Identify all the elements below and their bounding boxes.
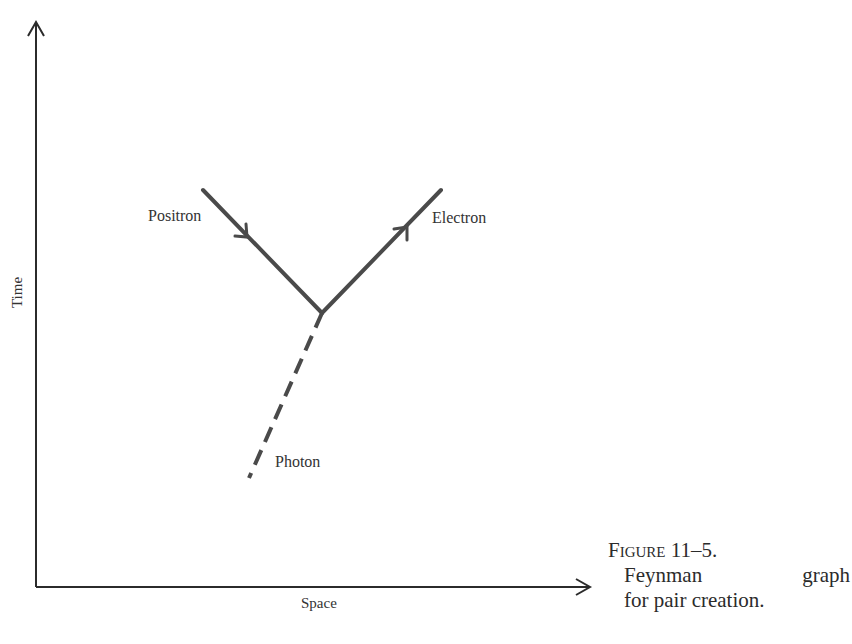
caption-line-1: Feynman graph [608, 563, 850, 588]
time-axis-label: Time [9, 277, 26, 308]
positron-label: Positron [148, 207, 201, 225]
figure-caption: Figure 11–5. Feynman graph for pair crea… [608, 538, 850, 613]
space-axis-label: Space [301, 595, 337, 612]
axes [28, 22, 590, 595]
electron-line [322, 190, 441, 313]
figure-number: Figure 11–5. [608, 538, 850, 563]
positron-line [203, 190, 322, 313]
caption-word-feynman: Feynman [624, 563, 702, 588]
caption-line-2: for pair creation. [608, 588, 850, 613]
caption-word-graph: graph [802, 563, 850, 588]
photon-label: Photon [275, 453, 320, 471]
electron-label: Electron [432, 209, 486, 227]
